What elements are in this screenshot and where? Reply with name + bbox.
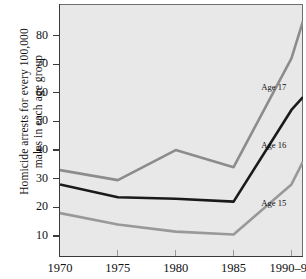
y-tick-mark [53, 149, 60, 150]
y-tick-label: 80 [8, 28, 48, 43]
y-tick-mark [53, 178, 60, 179]
y-tick-label: 40 [8, 142, 48, 157]
plot-lines [60, 4, 303, 256]
x-tick-label: 1990–91 [256, 261, 306, 276]
y-tick-mark [53, 235, 60, 236]
y-tick-label: 20 [8, 199, 48, 214]
y-tick-mark [53, 121, 60, 122]
y-tick-mark [53, 64, 60, 65]
chart-figure: Homicide arrests for every 100,000 males… [0, 0, 306, 279]
y-tick-mark [53, 92, 60, 93]
x-tick-mark [291, 250, 292, 256]
y-tick-label: 10 [8, 228, 48, 243]
y-tick-label: 70 [8, 56, 48, 71]
x-tick-mark [117, 250, 118, 256]
x-tick-mark [175, 250, 176, 256]
y-tick-label: 60 [8, 85, 48, 100]
y-tick-mark [53, 35, 60, 36]
y-tick-label: 50 [8, 113, 48, 128]
series-label-age-15: Age 15 [261, 198, 286, 208]
y-tick-label: 30 [8, 171, 48, 186]
y-tick-mark [53, 207, 60, 208]
series-line-age-17 [60, 21, 303, 180]
x-tick-mark [233, 250, 234, 256]
y-axis-line [59, 4, 60, 257]
series-label-age-16: Age 16 [261, 140, 286, 150]
series-label-age-17: Age 17 [261, 82, 286, 92]
x-axis-line [59, 256, 303, 257]
